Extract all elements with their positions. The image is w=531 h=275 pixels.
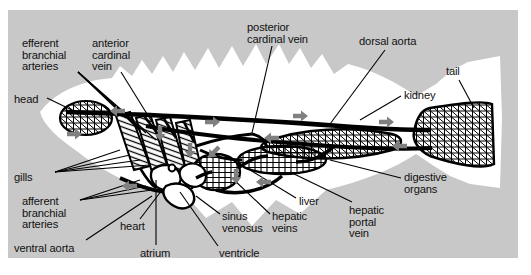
label-anterior-cardinal-vein: anterior cardinal vein (92, 38, 130, 73)
label-ventral-aorta: ventral aorta (14, 243, 74, 255)
label-kidney: kidney (404, 90, 435, 102)
label-ventricle: ventricle (219, 248, 259, 260)
label-afferent-branchial-arteries: afferent branchial arteries (22, 196, 66, 231)
label-hepatic-portal-vein: hepatic portal vein (349, 205, 384, 240)
head-capillary-bed (60, 101, 112, 135)
label-hepatic-veins: hepatic veins (272, 211, 307, 234)
label-head: head (14, 94, 38, 106)
label-digestive-organs: digestive organs (404, 172, 447, 195)
label-gills: gills (14, 172, 33, 184)
label-atrium: atrium (140, 248, 170, 260)
leader-heart (140, 190, 162, 219)
label-posterior-cardinal-vein: posterior cardinal vein (247, 22, 308, 45)
label-efferent-branchial-arteries: efferent branchial arteries (22, 38, 66, 73)
leader-afferent-1 (80, 180, 140, 200)
ventricle-chamber (163, 184, 194, 209)
leader-afferent-3 (80, 190, 152, 200)
label-liver: liver (299, 196, 319, 208)
heart-valve-node (169, 165, 176, 172)
label-dorsal-aorta: dorsal aorta (359, 36, 416, 48)
label-sinus-venosus: sinus venosus (222, 211, 263, 234)
label-heart: heart (120, 221, 145, 233)
leader-ventral-aorta (86, 196, 152, 240)
label-tail: tail (446, 66, 460, 78)
figure-canvas: efferent branchial arteriesanterior card… (0, 0, 531, 275)
